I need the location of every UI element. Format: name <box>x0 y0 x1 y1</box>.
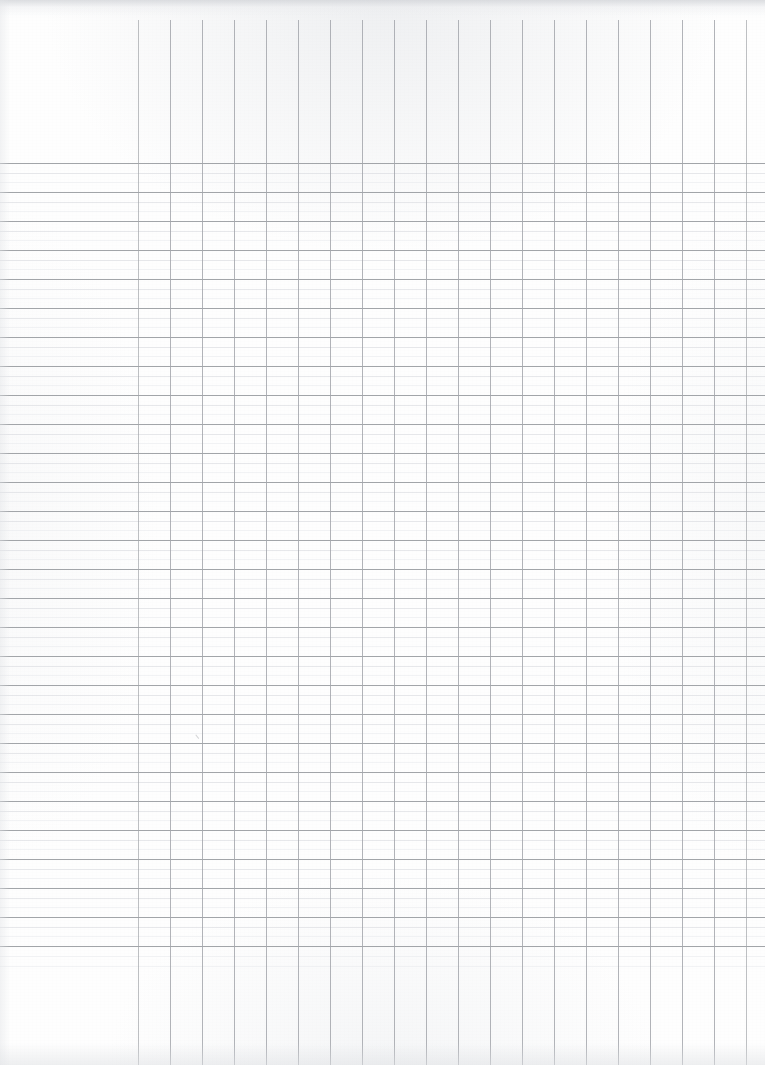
description-column <box>0 0 138 1065</box>
ledger-sheet <box>0 0 765 1065</box>
